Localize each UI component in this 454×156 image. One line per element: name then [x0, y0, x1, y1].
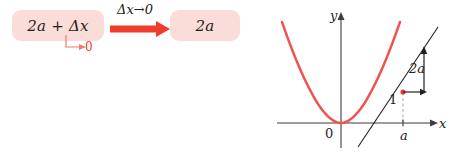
limit-panel: 2a + Δx Δx→0 0 2a [0, 0, 246, 156]
x-axis-label: x [439, 116, 446, 131]
x-tick-label-a: a [400, 128, 408, 143]
parabola-plot [246, 0, 454, 156]
expression-box-to: 2a [170, 10, 240, 41]
math-figure: 2a + Δx Δx→0 0 2a [0, 0, 454, 156]
x-axis [277, 120, 438, 127]
limit-arrow-icon [110, 21, 170, 37]
tangent-line [358, 27, 438, 147]
graph-panel: y x 0 a 2a 1 [246, 0, 454, 156]
corner-arrow-icon [66, 35, 86, 50]
origin-label: 0 [325, 126, 333, 141]
y-axis [338, 12, 345, 148]
y-axis-label: y [330, 8, 337, 23]
delta-limit-zero-label: 0 [85, 40, 93, 54]
slope-run-label: 1 [389, 92, 397, 107]
expression-to-text: 2a [196, 17, 215, 35]
slope-rise-label: 2a [409, 61, 425, 76]
